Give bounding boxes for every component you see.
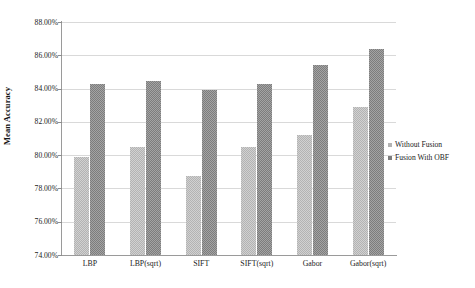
x-axis-tick-label: Gabor(sqrt) — [340, 259, 396, 268]
y-axis-tick-label: 78.00% — [12, 184, 58, 193]
bar-group — [285, 22, 341, 255]
x-axis-tick-label: LBP(sqrt) — [118, 259, 174, 268]
y-axis-tickmark — [58, 89, 62, 90]
bar — [257, 84, 272, 255]
y-axis-tickmark — [58, 122, 62, 123]
bar-chart: Mean Accuracy 88.00%86.00%84.00%82.00%80… — [0, 0, 475, 288]
legend-swatch-icon — [388, 156, 392, 160]
y-axis-tick-label: 80.00% — [12, 151, 58, 160]
bar — [313, 65, 328, 255]
y-axis-tickmark — [58, 255, 62, 256]
bar — [297, 135, 312, 255]
bar — [186, 176, 201, 255]
bar — [369, 49, 384, 255]
y-axis-tick-label: 86.00% — [12, 51, 58, 60]
bar-group — [118, 22, 174, 255]
y-axis-tickmark — [58, 155, 62, 156]
x-axis-line — [61, 255, 397, 256]
bar — [130, 147, 145, 255]
x-axis-tick-label: SIFT(sqrt) — [229, 259, 285, 268]
x-axis-tick-label: SIFT — [173, 259, 229, 268]
legend-label: Without Fusion — [395, 140, 442, 149]
bars-layer — [62, 22, 396, 255]
y-axis-tick-label: 82.00% — [12, 117, 58, 126]
y-axis-tickmark — [58, 222, 62, 223]
bar — [74, 157, 89, 255]
y-axis-tick-labels: 88.00%86.00%84.00%82.00%80.00%78.00%76.0… — [10, 0, 58, 288]
y-axis-tickmark — [58, 22, 62, 23]
bar — [146, 81, 161, 255]
legend-item[interactable]: Without Fusion — [388, 139, 474, 150]
bar-group — [173, 22, 229, 255]
x-axis-tick-labels: LBPLBP(sqrt)SIFTSIFT(sqrt)GaborGabor(sqr… — [62, 259, 396, 275]
plot-area — [62, 22, 396, 255]
legend: Without FusionFusion With OBF — [388, 139, 474, 165]
y-axis-tick-label: 74.00% — [12, 251, 58, 260]
legend-item[interactable]: Fusion With OBF — [388, 152, 474, 163]
y-axis-tick-label: 84.00% — [12, 84, 58, 93]
bar-group — [62, 22, 118, 255]
bar — [90, 84, 105, 255]
y-axis-tickmark — [58, 55, 62, 56]
x-axis-tick-label: LBP — [62, 259, 118, 268]
bar — [353, 107, 368, 255]
y-axis-tick-label: 76.00% — [12, 217, 58, 226]
y-axis-tick-label: 88.00% — [12, 18, 58, 27]
legend-swatch-icon — [388, 143, 392, 147]
bar — [202, 90, 217, 255]
bar-group — [229, 22, 285, 255]
y-axis-tickmark — [58, 188, 62, 189]
bar — [241, 147, 256, 255]
legend-label: Fusion With OBF — [395, 153, 449, 162]
x-axis-tick-label: Gabor — [285, 259, 341, 268]
